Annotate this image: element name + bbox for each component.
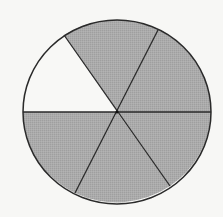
diagram-canvas: 5/6 <box>0 0 223 217</box>
center-point <box>116 111 119 114</box>
fraction-circle <box>0 0 223 217</box>
